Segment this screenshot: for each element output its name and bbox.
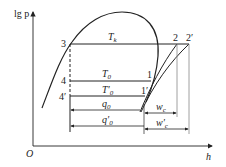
point-1-label: 1 — [147, 69, 152, 80]
y-axis-label: lg p — [14, 8, 29, 19]
wc-label: wc — [156, 101, 167, 114]
origin-label: O — [26, 148, 33, 159]
Tk-label: Tk — [108, 31, 118, 44]
point-4-label: 4 — [61, 75, 66, 86]
x-axis-label: h — [206, 151, 211, 162]
lgp-h-diagram: lg p h O 3 4 4′ 1 1′ 2 2′ Tk T0 T′0 q0 q… — [0, 0, 226, 167]
point-1p-label: 1′ — [141, 85, 148, 96]
T0-label: T0 — [102, 68, 112, 81]
point-2p-label: 2′ — [186, 32, 193, 43]
point-2-label: 2 — [173, 32, 178, 43]
q0-label: q0 — [102, 98, 111, 111]
T0p-label: T′0 — [102, 84, 114, 97]
q0p-label: q′0 — [102, 114, 113, 127]
wcp-label: w′c — [156, 117, 169, 130]
point-3-label: 3 — [61, 38, 66, 49]
point-4p-label: 4′ — [59, 91, 66, 102]
